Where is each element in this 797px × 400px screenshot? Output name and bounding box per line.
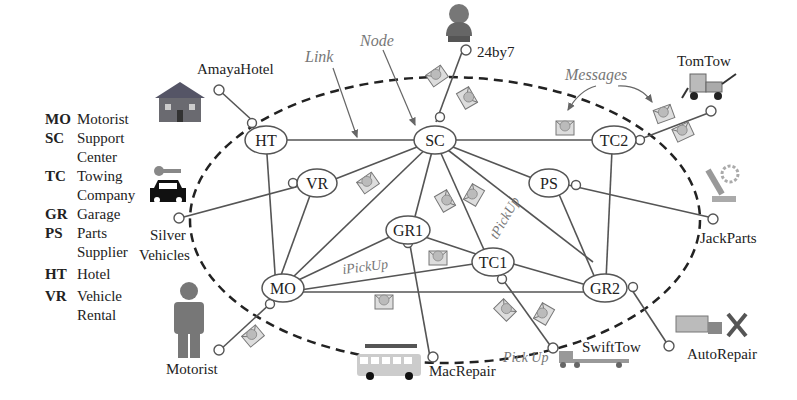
- motorist-label: Motorist: [166, 361, 219, 377]
- node-vr: VR: [297, 169, 337, 197]
- node-ps: PS: [529, 169, 569, 197]
- node-gr1: GR1: [386, 216, 430, 244]
- svg-text:PS: PS: [540, 175, 558, 192]
- swifttow-label: SwiftTow: [582, 339, 641, 355]
- envelope-icon: [434, 190, 455, 213]
- envelope-icon: [375, 295, 393, 309]
- envelope-icon: [426, 65, 449, 87]
- tomtow-label: TomTow: [677, 53, 731, 69]
- envelope-icon: [463, 184, 484, 207]
- envelope-icon: [242, 325, 265, 347]
- node-ht: HT: [245, 126, 287, 154]
- motorist-icon: [174, 282, 204, 358]
- messages: [242, 65, 695, 347]
- annotation-arrows: [333, 50, 652, 137]
- envelope-icon: [556, 121, 574, 135]
- svg-text:HT: HT: [255, 132, 277, 149]
- svg-text:TC1: TC1: [479, 254, 507, 271]
- car-icon: [150, 180, 186, 203]
- key-icon: [154, 166, 181, 176]
- node-tc2: TC2: [592, 126, 636, 154]
- parts-icon: [708, 166, 738, 202]
- jackparts-label: JackParts: [700, 230, 757, 246]
- svg-text:SC: SC: [425, 132, 445, 149]
- 24by7-label: 24by7: [477, 44, 515, 60]
- silver-label: Silver: [150, 227, 186, 243]
- envelope-icon: [456, 87, 477, 110]
- bus-repair-icon: [357, 346, 421, 380]
- pickup-annotation: Pick Up: [502, 350, 548, 365]
- envelope-icon: [653, 104, 675, 123]
- amayahotel-label: AmayaHotel: [197, 61, 274, 77]
- hotel-icon: [155, 82, 205, 122]
- svg-text:VR: VR: [306, 175, 329, 192]
- truck-tools-icon: [676, 314, 746, 336]
- svg-text:TC2: TC2: [600, 132, 628, 149]
- tpickup-annotation: tPickUp: [487, 194, 523, 241]
- network-diagram: HT SC TC2 VR PS GR1 TC1 MO GR2 Link Node…: [0, 0, 797, 400]
- svg-text:MO: MO: [270, 280, 296, 297]
- node-tc1: TC1: [472, 248, 514, 276]
- messages-annotation: Messages: [564, 66, 627, 84]
- tow-truck-icon: [682, 74, 736, 100]
- link-annotation: Link: [304, 48, 334, 65]
- envelope-icon: [357, 172, 380, 194]
- autorepair-label: AutoRepair: [687, 346, 757, 362]
- svg-text:GR1: GR1: [393, 222, 423, 239]
- envelope-icon: [533, 303, 554, 326]
- ipickup-annotation: iPickUp: [342, 256, 389, 276]
- vehicles-label: Vehicles: [139, 247, 190, 263]
- envelope-icon: [494, 299, 517, 322]
- svg-text:GR2: GR2: [590, 280, 620, 297]
- agent-icon: [446, 4, 472, 42]
- node-mo: MO: [262, 274, 304, 302]
- node-sc: SC: [414, 126, 456, 154]
- node-annotation: Node: [359, 32, 394, 49]
- envelope-icon: [429, 251, 447, 265]
- network-boundary: [190, 77, 700, 363]
- macrepair-label: MacRepair: [429, 363, 496, 379]
- node-gr2: GR2: [583, 274, 627, 302]
